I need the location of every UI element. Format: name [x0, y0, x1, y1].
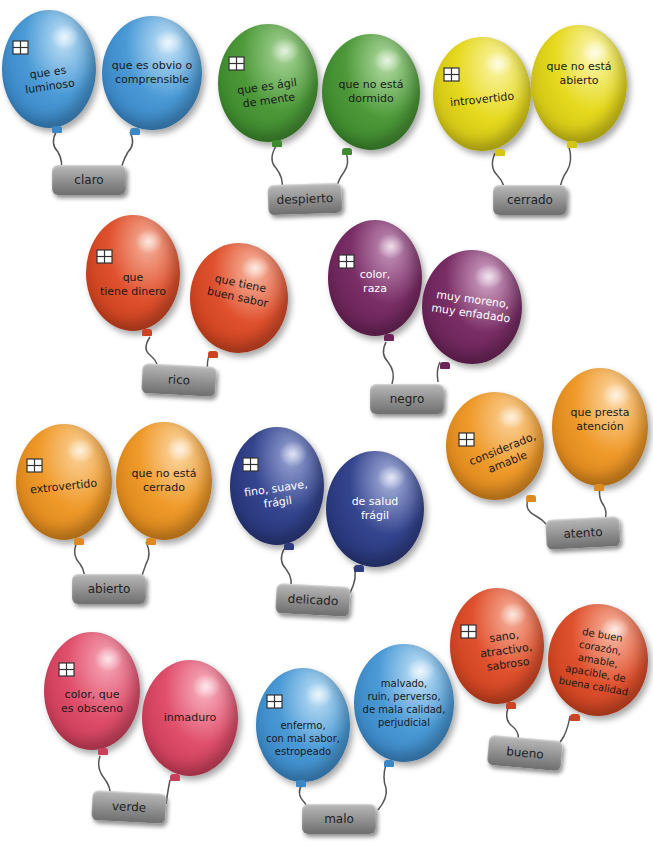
balloon-knot: [296, 780, 306, 787]
balloon-left: extrovertido: [16, 424, 112, 540]
balloon-knot: [74, 538, 84, 545]
balloon-meaning: fino, suave, frágil: [236, 477, 319, 516]
balloon-meaning: introvertido: [441, 89, 522, 111]
word-tag-cerrado: cerrado: [493, 185, 567, 215]
balloon-knot: [130, 128, 140, 135]
balloon-right: de salud frágil: [326, 451, 424, 567]
balloon-right: malvado, ruin, perverso, de mala calidad…: [354, 644, 454, 762]
balloon-knot: [567, 141, 577, 148]
balloon-knot: [208, 351, 218, 358]
balloon-group-atento: considerado, amable que presta atención …: [438, 360, 648, 570]
balloon-knot: [526, 495, 536, 502]
balloon-knot: [98, 748, 108, 755]
balloon-left: enfermo, con mal sabor, estropeado: [256, 668, 350, 782]
balloon-right: que es obvio o comprensible: [102, 16, 202, 130]
balloon-group-abierto: extrovertido que no está cerrado abierto: [0, 410, 220, 620]
balloon-meaning: que es luminoso: [14, 62, 83, 99]
balloon-knot: [594, 484, 604, 491]
balloon-meaning: que no está dormido: [331, 78, 412, 106]
balloon-meaning: de salud frágil: [344, 495, 407, 523]
balloon-meaning: malvado, ruin, perverso, de mala calidad…: [355, 677, 454, 729]
word-tag-bueno: bueno: [487, 735, 563, 771]
balloon-left: que es luminoso: [2, 10, 96, 128]
window-icon: [443, 67, 460, 82]
word-tag-abierto: abierto: [72, 574, 146, 604]
window-icon: [338, 254, 355, 269]
window-icon: [242, 457, 259, 472]
balloon-meaning: extrovertido: [22, 476, 106, 499]
balloon-knot: [342, 148, 352, 155]
balloon-knot: [142, 329, 152, 336]
balloon-left: sano, atractivo, sabroso: [450, 588, 544, 704]
balloon-right: de buen corazón, amable, apacible, de bu…: [548, 604, 648, 716]
balloon-group-bueno: sano, atractivo, sabroso de buen corazón…: [440, 580, 648, 780]
word-tag-delicado: delicado: [275, 583, 350, 617]
balloon-left: considerado, amable: [446, 392, 544, 500]
balloon-knot: [284, 543, 294, 550]
balloon-meaning: color, que es obsceno: [53, 688, 131, 716]
balloon-right: que presta atención: [552, 368, 648, 486]
balloon-meaning: que no está cerrado: [124, 467, 205, 495]
word-tag-despierto: despierto: [267, 183, 342, 216]
balloon-group-despierto: que es ágil de mente que no está dormido…: [210, 10, 430, 225]
balloon-left: color, que es obsceno: [44, 632, 140, 750]
window-icon: [12, 40, 29, 55]
window-icon: [96, 249, 113, 264]
balloon-right: muy moreno, muy enfadado: [422, 250, 522, 364]
window-icon: [266, 694, 283, 709]
balloon-meaning: que presta atención: [562, 406, 637, 434]
balloon-group-claro: que es luminoso que es obvio o comprensi…: [0, 0, 210, 205]
window-icon: [228, 56, 245, 71]
balloon-knot: [384, 334, 394, 341]
balloon-right: inmaduro: [142, 660, 238, 776]
balloon-left: introvertido: [433, 37, 531, 151]
balloon-right: que no está cerrado: [116, 422, 212, 540]
window-icon: [58, 662, 75, 677]
word-tag-rico: rico: [141, 363, 216, 397]
word-tag-claro: claro: [52, 165, 126, 195]
balloon-knot: [272, 140, 282, 147]
word-tag-verde: verde: [91, 790, 166, 824]
balloon-knot: [495, 149, 505, 156]
balloon-knot: [506, 702, 516, 709]
balloon-meaning: que tiene buen sabor: [198, 269, 280, 313]
balloon-group-cerrado: introvertido que no está abierto cerrado: [425, 15, 648, 230]
balloon-meaning: de buen corazón, amable, apacible, de bu…: [543, 619, 653, 700]
balloon-group-malo: enfermo, con mal sabor, estropeado malva…: [240, 630, 460, 851]
balloon-knot: [384, 760, 394, 767]
balloon-left: fino, suave, frágil: [230, 427, 324, 545]
balloon-meaning: inmaduro: [156, 711, 224, 725]
balloon-left: color, raza: [328, 220, 422, 336]
balloon-meaning: que tiene dinero: [92, 271, 174, 299]
balloon-meaning: que es ágil de mente: [228, 75, 307, 113]
balloon-knot: [354, 565, 364, 572]
word-tag-malo: malo: [302, 804, 376, 834]
balloon-meaning: que es obvio o comprensible: [104, 59, 200, 87]
balloon-group-verde: color, que es obsceno inmaduro verde: [20, 620, 250, 851]
balloon-right: que no está dormido: [322, 34, 420, 150]
window-icon: [458, 432, 475, 447]
balloon-group-delicado: fino, suave, frágil de salud frágil deli…: [220, 415, 440, 630]
balloon-right: que tiene buen sabor: [190, 243, 288, 353]
balloon-knot: [146, 538, 156, 545]
balloon-meaning: color, raza: [352, 268, 399, 296]
balloon-left: que tiene dinero: [86, 215, 180, 331]
word-tag-atento: atento: [545, 516, 620, 550]
balloon-right: que no está abierto: [531, 25, 627, 143]
balloon-meaning: enfermo, con mal sabor, estropeado: [258, 719, 348, 758]
balloon-meaning: que no está abierto: [539, 60, 620, 88]
word-tag-negro: negro: [370, 384, 444, 414]
balloon-meaning: sano, atractivo, sabroso: [469, 625, 543, 676]
balloon-group-rico: que tiene dinero que tiene buen sabor ri…: [80, 205, 300, 415]
balloon-meaning: muy moreno, muy enfadado: [423, 286, 521, 327]
balloon-left: que es ágil de mente: [218, 24, 318, 142]
window-icon: [26, 458, 43, 473]
balloon-knot: [170, 774, 180, 781]
balloon-knot: [52, 126, 62, 133]
balloon-knot: [570, 714, 580, 721]
